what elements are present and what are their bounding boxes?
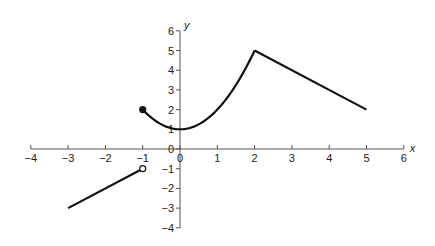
tick-labels: −4−3−2−10123456−4−3−2−10123456: [25, 25, 407, 234]
y-tick-label: −4: [161, 222, 174, 234]
y-tick-label: 0: [168, 143, 174, 155]
segment-curve: [143, 51, 255, 130]
y-axis-label: y: [183, 19, 191, 31]
y-tick-label: −3: [161, 202, 174, 214]
y-tick-label: 3: [168, 84, 174, 96]
function-graph: −4−3−2−10123456−4−3−2−10123456 x y: [0, 0, 435, 246]
y-tick-label: 5: [168, 45, 174, 57]
y-tick-label: −2: [161, 182, 174, 194]
x-tick-label: 0: [177, 152, 183, 164]
x-tick-label: −4: [25, 152, 38, 164]
x-tick-label: 4: [326, 152, 332, 164]
x-tick-label: 3: [289, 152, 295, 164]
x-tick-label: 2: [252, 152, 258, 164]
y-tick-label: 2: [168, 104, 174, 116]
x-tick-label: 1: [214, 152, 220, 164]
x-tick-label: −2: [99, 152, 112, 164]
y-tick-label: 6: [168, 25, 174, 37]
x-tick-label: −1: [136, 152, 149, 164]
x-axis-label: x: [409, 142, 416, 154]
y-tick-label: 4: [168, 64, 174, 76]
y-tick-label: −1: [161, 163, 174, 175]
x-tick-label: −3: [62, 152, 75, 164]
x-tick-label: 6: [401, 152, 407, 164]
x-tick-label: 5: [363, 152, 369, 164]
open-circle-marker: [140, 166, 146, 172]
segment-left: [68, 169, 143, 208]
segment-right: [255, 51, 367, 110]
filled-circle-marker: [140, 107, 146, 113]
plot-series: [68, 51, 366, 209]
